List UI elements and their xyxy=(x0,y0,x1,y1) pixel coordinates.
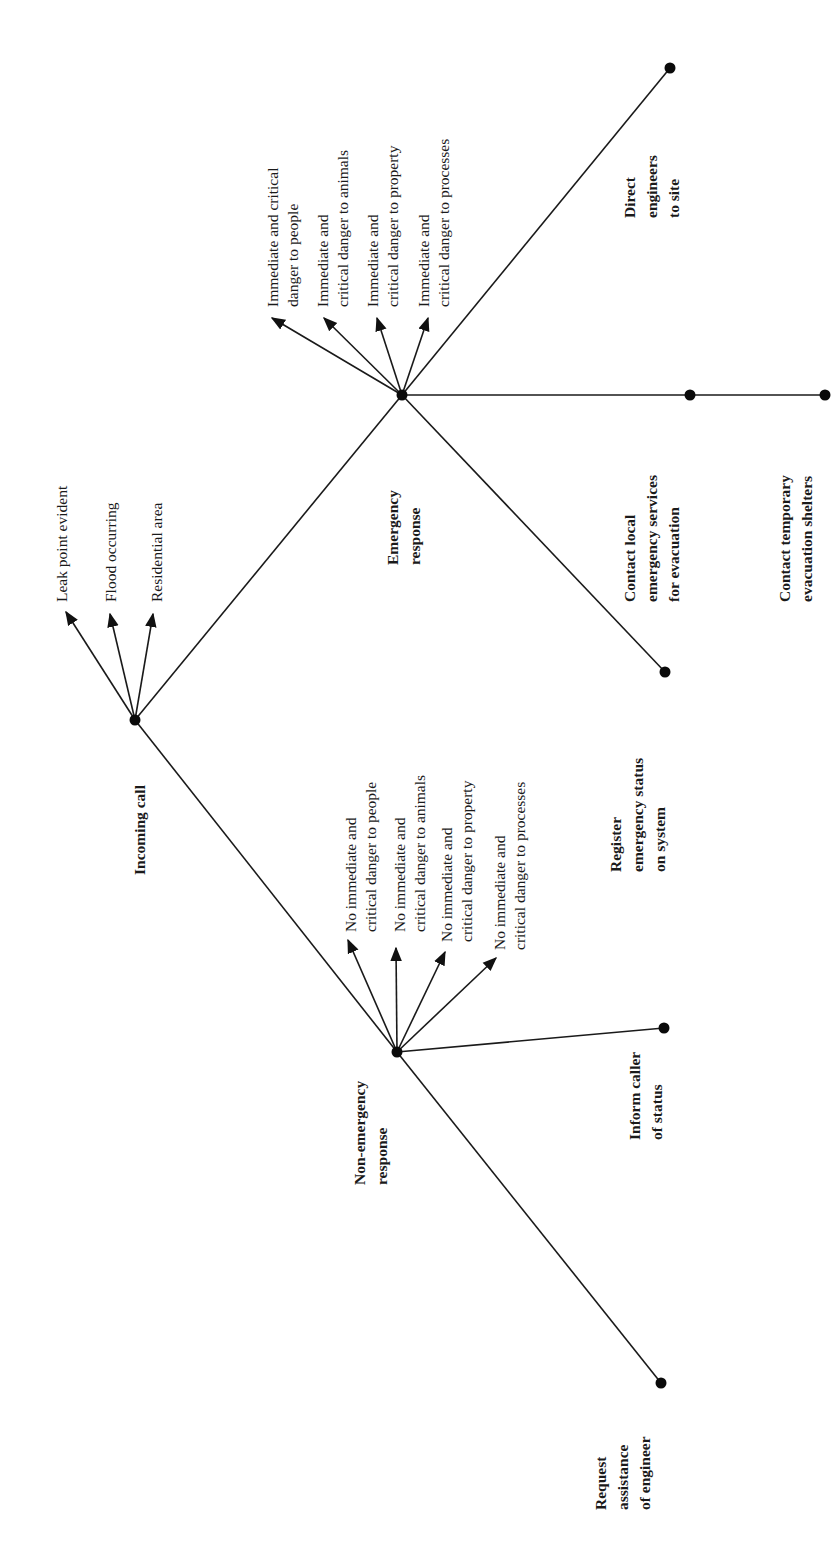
edge-request-engineer xyxy=(397,1052,661,1383)
node-direct-engineers xyxy=(665,63,676,74)
arrow-leak xyxy=(66,612,135,720)
label-n-people-2: critical danger to people xyxy=(362,782,379,932)
label-request-3: of engineer xyxy=(636,1436,653,1510)
label-n-people-1: No immediate and xyxy=(342,817,359,932)
label-shelters-1: Contact temporary xyxy=(776,475,793,602)
label-e-animals-2: critical danger to animals xyxy=(334,150,351,307)
label-register-2: emergency status xyxy=(629,758,646,872)
arrow-n-animals xyxy=(396,948,397,1052)
arrow-n-people xyxy=(348,940,397,1052)
label-e-people-1: Immediate and critical xyxy=(264,168,281,307)
label-nonemergency-2: response xyxy=(373,1127,390,1185)
label-request-2: assistance xyxy=(614,1444,631,1510)
arrow-e-processes xyxy=(402,318,428,395)
node-nonemergency xyxy=(392,1047,403,1058)
label-emergency-2: response xyxy=(406,507,423,565)
node-register-status xyxy=(660,667,671,678)
label-shelters-2: evacuation shelters xyxy=(798,476,815,602)
label-n-processes-1: No immediate and xyxy=(491,835,508,950)
edge-inform-caller xyxy=(397,1028,664,1052)
label-e-property-1: Immediate and xyxy=(364,214,381,307)
node-incoming-call xyxy=(130,715,141,726)
node-inform-caller xyxy=(659,1023,670,1034)
node-contact-shelters xyxy=(820,390,831,401)
arrow-n-property xyxy=(397,952,445,1052)
node-contact-local xyxy=(685,390,696,401)
label-local-1: Contact local xyxy=(621,514,638,602)
arrow-residential xyxy=(135,614,153,720)
label-request-1: Request xyxy=(592,1456,609,1510)
label-e-animals-1: Immediate and xyxy=(314,214,331,307)
label-n-property-1: No immediate and xyxy=(438,827,455,942)
edge-incoming-to-emergency xyxy=(135,395,402,720)
nodes xyxy=(130,63,831,1389)
label-leak: Leak point evident xyxy=(53,485,70,602)
label-direct-1: Direct xyxy=(621,176,638,218)
label-n-property-2: critical danger to property xyxy=(458,780,475,942)
label-e-processes-2: critical danger to processes xyxy=(435,139,452,307)
label-register-3: on system xyxy=(651,807,668,872)
arrow-flood xyxy=(110,614,135,720)
label-residential: Residential area xyxy=(148,502,165,602)
label-local-2: emergency services xyxy=(643,475,660,602)
label-n-animals-1: No immediate and xyxy=(391,817,408,932)
label-nonemergency-1: Non-emergency xyxy=(351,1081,368,1185)
label-flood: Flood occurring xyxy=(102,502,119,602)
arrow-n-processes xyxy=(397,958,496,1052)
label-inform-1: Inform caller xyxy=(626,1052,643,1140)
label-n-processes-2: critical danger to processes xyxy=(511,782,528,950)
label-direct-3: to site xyxy=(665,179,682,218)
label-n-animals-2: critical danger to animals xyxy=(411,775,428,932)
label-e-people-2: danger to people xyxy=(284,204,301,307)
label-e-processes-1: Immediate and xyxy=(415,214,432,307)
arrow-e-people xyxy=(272,318,402,395)
label-emergency-1: Emergency xyxy=(384,490,401,565)
label-register-1: Register xyxy=(607,817,624,872)
label-inform-2: of status xyxy=(648,1084,665,1140)
label-direct-2: engineers xyxy=(643,155,660,218)
node-emergency xyxy=(397,390,408,401)
label-local-3: for evacuation xyxy=(665,507,682,602)
node-request-engineer xyxy=(656,1378,667,1389)
label-e-property-2: critical danger to property xyxy=(384,145,401,307)
label-incoming-call: Incoming call xyxy=(131,784,148,875)
decision-tree-diagram: Leak point evident Flood occurring Resid… xyxy=(0,0,832,1543)
